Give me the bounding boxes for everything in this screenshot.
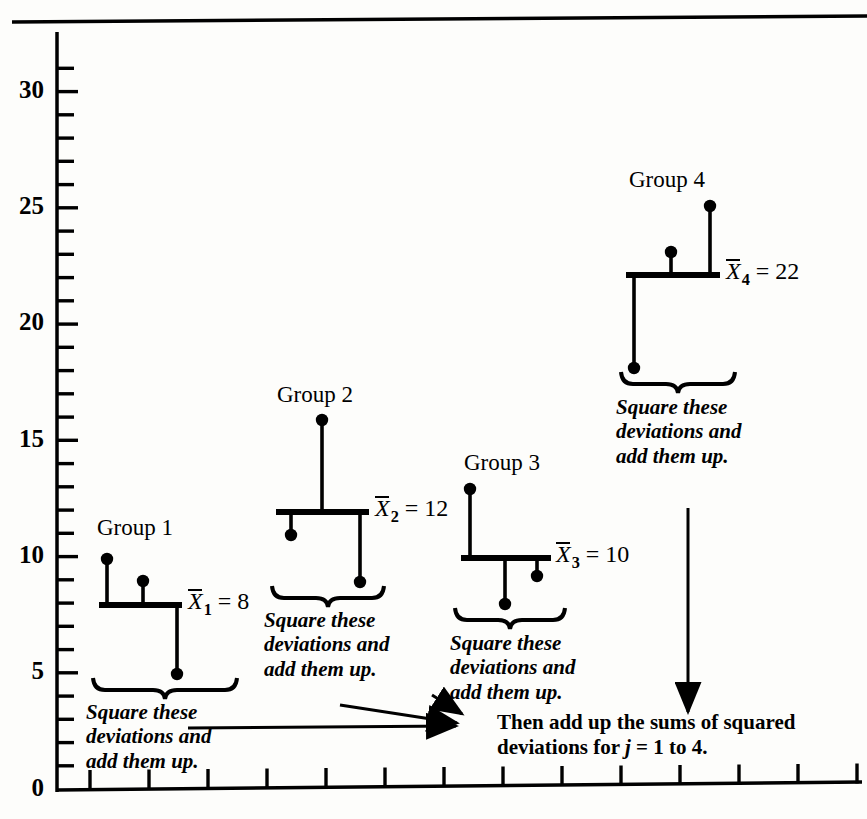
y-tick-label-15: 15 [0,425,44,453]
group-4-caption-line-3: add them up. [616,444,741,468]
group-2-mean-label: X2 = 12 [375,495,448,526]
group-4-title: Group 4 [629,167,705,193]
group-1-mean-var: X [188,588,204,614]
y-tick-label-30: 30 [0,76,44,104]
group-2-caption-line-3: add them up. [264,657,389,681]
group-3-caption-line-2: deviations and [450,655,575,679]
summary-note-line-2: deviations for j = 1 to 4. [497,735,795,760]
group-1-brace [93,678,237,699]
y-tick-label-10: 10 [0,541,44,569]
group-1-caption: Square these deviations and add them up. [86,700,211,773]
group-2-mean-subscript: 2 [391,507,399,526]
group-4-plot [621,200,735,393]
group-2-caption: Square these deviations and add them up. [264,608,389,681]
x-axis-line [57,782,862,790]
group-2-point-3 [354,576,366,588]
group-3-mean-subscript: 3 [572,553,580,572]
group-2-mean-value: = 12 [405,495,449,521]
group-2-caption-line-1: Square these [264,608,389,632]
summary-note-line-1: Then add up the sums of squared [497,710,795,735]
group-4-mean-var: X [726,258,742,284]
top-rule [12,16,867,22]
arrow-from-group2-caption [340,705,457,723]
group-1-caption-line-2: deviations and [86,724,211,748]
group-1-mean-subscript: 1 [204,600,212,619]
group-1-point-3 [171,668,183,680]
group-4-caption-line-2: deviations and [616,419,741,443]
group-1-caption-line-3: add them up. [86,749,211,773]
group-3-point-1 [464,483,476,495]
group-1-mean-value: = 8 [218,588,250,614]
group-4-caption: Square these deviations and add them up. [616,395,741,468]
group-3-plot [455,483,565,629]
summary-note-line-2-suffix: = 1 to 4. [631,735,708,759]
group-3-caption-line-3: add them up. [450,680,575,704]
anova-deviation-figure: 30 25 20 15 10 5 0 Group 1 X1 = 8 Square… [0,0,867,819]
arrow-from-group1-caption [188,726,456,728]
group-4-point-3 [628,362,640,374]
group-1-mean-label: X1 = 8 [188,588,249,619]
summary-note-line-2-prefix: deviations for [497,735,625,759]
group-3-mean-label: X3 = 10 [556,541,629,572]
group-3-title: Group 3 [464,450,540,476]
group-1-point-1 [101,553,113,565]
group-2-point-2 [285,529,297,541]
y-tick-label-25: 25 [0,192,44,220]
group-4-mean-label: X4 = 22 [726,258,799,289]
group-2-title: Group 2 [277,382,353,408]
group-3-caption: Square these deviations and add them up. [450,631,575,704]
y-tick-label-20: 20 [0,308,44,336]
group-4-caption-line-1: Square these [616,395,741,419]
group-3-brace [455,608,565,629]
group-2-brace [272,586,384,607]
y-axis-minor-ticks [57,68,78,766]
group-4-point-2 [665,246,677,258]
group-4-mean-value: = 22 [756,258,800,284]
group-2-plot [272,414,384,607]
group-4-mean-subscript: 4 [742,270,750,289]
group-4-brace [621,372,735,393]
group-3-mean-value: = 10 [586,541,630,567]
group-1-plot [93,553,237,699]
y-tick-label-0: 0 [0,774,44,802]
group-1-title: Group 1 [97,515,173,541]
group-3-point-2 [499,598,511,610]
group-1-point-2 [137,575,149,587]
group-3-mean-var: X [556,541,572,567]
group-4-point-1 [704,200,716,212]
group-2-point-1 [316,414,328,426]
group-1-caption-line-1: Square these [86,700,211,724]
group-2-caption-line-2: deviations and [264,632,389,656]
summary-note: Then add up the sums of squared deviatio… [497,710,795,760]
y-tick-label-5: 5 [0,657,44,685]
group-2-mean-var: X [375,495,391,521]
group-3-caption-line-1: Square these [450,631,575,655]
group-3-point-3 [531,570,543,582]
